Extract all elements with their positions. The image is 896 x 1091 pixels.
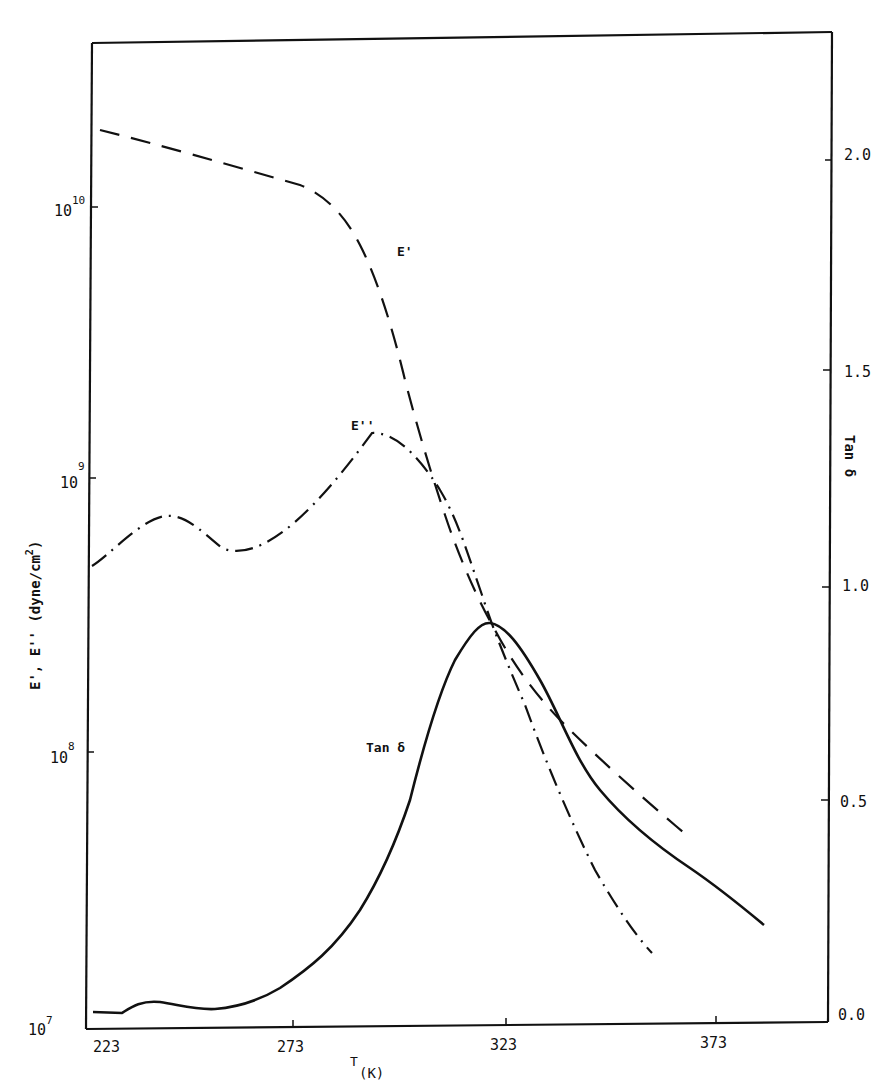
x-axis-T: T (350, 1054, 358, 1069)
axis-top (92, 32, 832, 43)
axis-bottom (86, 1022, 828, 1029)
curve-e-double-prime (92, 433, 652, 953)
y-left-tick-1e9: 10 9 (60, 460, 85, 492)
y-right-tick-1.5: 1.5 (844, 363, 871, 381)
svg-text:10: 10 (60, 474, 78, 492)
label-e-double-prime: E'' (351, 418, 374, 433)
curve-tan-delta (93, 623, 764, 1013)
axis-right (828, 32, 832, 1022)
y-right-axis-title: Tan δ (842, 435, 858, 477)
curve-e-prime (100, 130, 690, 838)
x-tick-273: 273 (277, 1038, 304, 1056)
y-right-tick-0.5: 0.5 (840, 793, 867, 811)
svg-text:10: 10 (50, 749, 68, 767)
y-left-tick-1e8: 10 8 (50, 740, 75, 767)
svg-text:E', E'' (dyne/cm2): E', E'' (dyne/cm2) (24, 541, 43, 690)
x-tick-labels: 223 273 323 373 (93, 1034, 727, 1056)
label-e-prime: E' (397, 244, 413, 259)
y-right-tick-labels: 2.0 1.5 1.0 0.5 0.0 (838, 146, 871, 1024)
y-left-tick-1e10: 10 10 (54, 194, 85, 220)
svg-text:8: 8 (68, 740, 75, 753)
y-right-tick-0.0: 0.0 (838, 1006, 865, 1024)
svg-text:10: 10 (28, 1021, 46, 1039)
svg-text:10: 10 (54, 202, 72, 220)
axis-left (86, 43, 92, 1029)
x-axis-unit: (K) (359, 1065, 384, 1081)
x-tick-223: 223 (93, 1038, 120, 1056)
label-tan-delta: Tan δ (366, 740, 405, 755)
svg-text:Tan δ: Tan δ (842, 435, 858, 477)
x-tick-373: 373 (700, 1034, 727, 1052)
y-left-tick-1e7: 10 7 (28, 1014, 53, 1039)
y-right-tick-1.0: 1.0 (842, 577, 869, 595)
dynamic-mechanical-chart: 223 273 323 373 T (K) 10 10 10 9 10 8 10… (0, 0, 896, 1091)
svg-text:7: 7 (46, 1014, 53, 1027)
svg-text:10: 10 (72, 194, 85, 207)
x-axis-title: T (K) (350, 1054, 384, 1081)
x-tick-323: 323 (490, 1036, 517, 1054)
y-right-tick-2.0: 2.0 (844, 146, 871, 164)
svg-text:9: 9 (78, 460, 85, 473)
y-left-axis-title: E', E'' (dyne/cm2) (24, 541, 43, 690)
